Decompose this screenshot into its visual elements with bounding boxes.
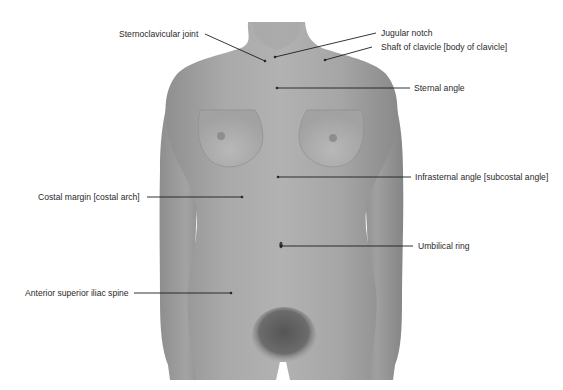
label-infrasternal-angle: Infrasternal angle [subcostal angle] — [415, 172, 548, 182]
label-sternal-angle: Sternal angle — [414, 83, 465, 93]
leader-endpoint-sternoclavicular-joint — [264, 60, 266, 62]
left-breast — [198, 110, 263, 167]
label-jugular-notch: Jugular notch — [381, 28, 433, 38]
leader-endpoint-umbilical-ring — [280, 245, 282, 247]
leader-endpoint-costal-margin — [241, 196, 243, 198]
right-nipple — [329, 134, 337, 142]
label-sternoclavicular-joint: Sternoclavicular joint — [119, 29, 198, 39]
leader-endpoint-sternal-angle — [276, 87, 278, 89]
leader-endpoint-anterior-superior-iliac-spine — [230, 292, 232, 294]
thigh-gap — [278, 362, 288, 380]
pubic-region — [252, 307, 316, 363]
left-nipple — [217, 132, 225, 140]
label-umbilical-ring: Umbilical ring — [418, 241, 470, 251]
label-anterior-superior-iliac-spine: Anterior superior iliac spine — [25, 288, 129, 298]
label-shaft-of-clavicle: Shaft of clavicle [body of clavicle] — [381, 42, 507, 52]
label-costal-margin: Costal margin [costal arch] — [38, 192, 140, 202]
leader-endpoint-infrasternal-angle — [277, 176, 279, 178]
leader-endpoint-jugular-notch — [274, 56, 276, 58]
leader-endpoint-shaft-of-clavicle — [324, 59, 326, 61]
